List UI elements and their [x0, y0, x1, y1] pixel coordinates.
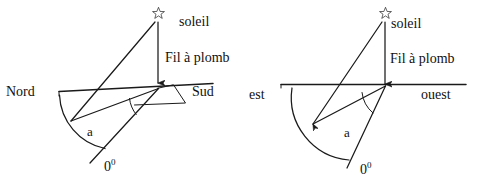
- angle-label-right: a: [344, 126, 350, 139]
- star-icon: [153, 7, 165, 18]
- angle-arc-left: [130, 99, 137, 115]
- horizon-line-left: [59, 84, 213, 92]
- direction-label-ouest: ouest: [421, 88, 451, 102]
- figure-root: soleil Fil à plomb Nord Sud a 00 soleil …: [0, 0, 483, 184]
- sun-ray-line-right: [313, 22, 382, 124]
- star-icon: [380, 7, 392, 18]
- nord-sud-diagram-group: [59, 7, 213, 163]
- direction-label-est: est: [249, 88, 265, 102]
- altitude-ray-right: [313, 86, 386, 124]
- plumb-line-label-left: Fil à plomb: [165, 51, 230, 65]
- zero-degree-label-right: 00: [360, 161, 372, 177]
- protractor-arc-right: [291, 88, 349, 160]
- direction-label-sud: Sud: [192, 85, 214, 99]
- protractor-arc-left: [60, 95, 106, 149]
- zero-degree-line-left: [90, 89, 159, 164]
- sun-label-left: soleil: [179, 15, 209, 29]
- sun-label-right: soleil: [391, 17, 421, 31]
- zero-degree-value-left: 0: [104, 159, 111, 174]
- zero-degree-superscript-right: 0: [367, 160, 372, 170]
- plumb-line-label-right: Fil à plomb: [390, 52, 455, 66]
- zero-degree-superscript-left: 0: [111, 157, 116, 167]
- zero-degree-value-right: 0: [360, 162, 367, 177]
- zero-degree-label-left: 00: [104, 158, 116, 174]
- zero-degree-line-right: [347, 86, 386, 168]
- angle-label-left: a: [87, 125, 93, 138]
- direction-label-nord: Nord: [6, 85, 35, 99]
